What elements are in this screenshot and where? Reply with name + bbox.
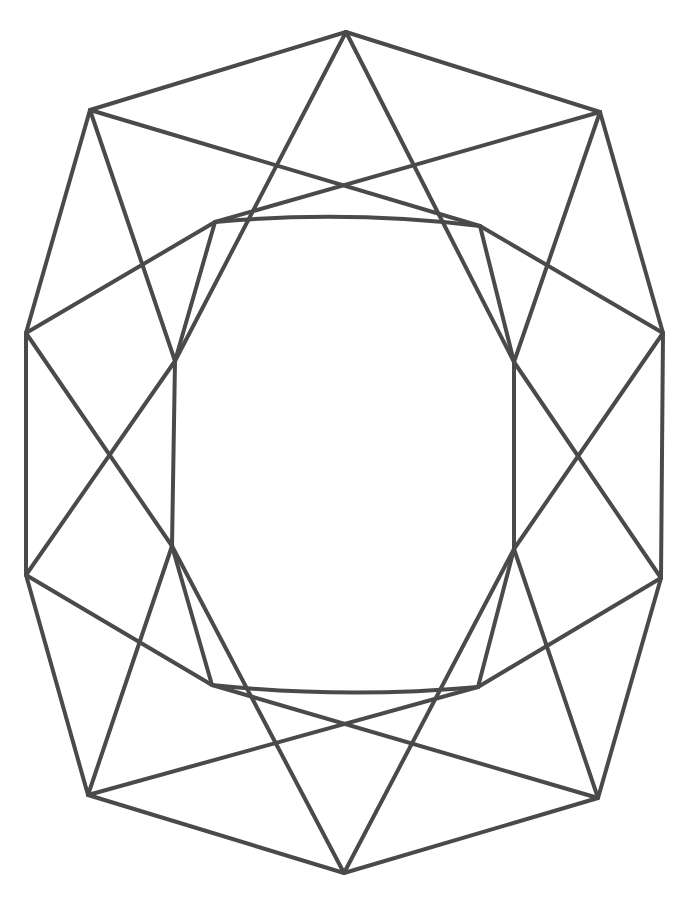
gemstone-facet-diagram: [0, 0, 692, 900]
